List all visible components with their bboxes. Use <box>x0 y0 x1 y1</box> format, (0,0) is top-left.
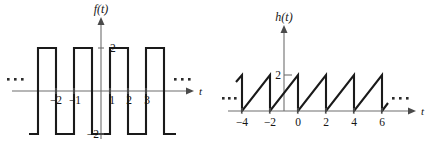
y-label-top-2: 2 <box>110 42 116 54</box>
y-label-2: 2 <box>275 69 281 81</box>
y-axis-arrow <box>98 17 105 25</box>
x-tick-label-minus2: −2 <box>264 116 276 128</box>
x-tick-label-3: 3 <box>144 94 150 106</box>
x-tick-label-minus2: −2 <box>50 94 62 106</box>
x-axis-label-t: t <box>421 105 425 117</box>
x-tick-label-minus4: −4 <box>236 116 248 128</box>
ellipsis-left <box>222 97 237 100</box>
ellipsis-left <box>7 78 24 81</box>
x-tick-label-2: 2 <box>323 116 329 128</box>
x-tick-label-6: 6 <box>379 116 385 128</box>
x-tick-label-1: 1 <box>109 94 115 106</box>
y-axis-arrow <box>281 25 288 33</box>
chart-panel-sawtooth-wave: −4 −2 0 2 4 6 2 h(t) t <box>222 0 445 164</box>
x-tick-label-2: 2 <box>126 94 132 106</box>
x-tick-label-0: 0 <box>295 116 301 128</box>
function-label-h: h(t) <box>275 10 292 24</box>
ellipsis-right <box>392 97 409 100</box>
y-label-bottom-minus2: −2 <box>87 128 99 140</box>
x-axis-label-t: t <box>199 85 203 97</box>
sawtooth-waveform-path <box>236 75 388 111</box>
x-tick-label-minus1: −1 <box>69 94 81 106</box>
ellipsis-right <box>174 78 191 81</box>
function-label-f: f(t) <box>94 2 109 16</box>
x-axis-arrow <box>186 88 194 95</box>
sawtooth-wave-svg: −4 −2 0 2 4 6 2 h(t) t <box>222 0 445 164</box>
chart-panel-square-wave: −2 −1 1 2 3 2 −2 f(t) t <box>0 0 222 164</box>
x-axis-arrow <box>408 108 416 115</box>
square-wave-svg: −2 −1 1 2 3 2 −2 f(t) t <box>0 0 222 164</box>
figure-root: −2 −1 1 2 3 2 −2 f(t) t <box>0 0 445 164</box>
x-tick-label-4: 4 <box>351 116 357 128</box>
